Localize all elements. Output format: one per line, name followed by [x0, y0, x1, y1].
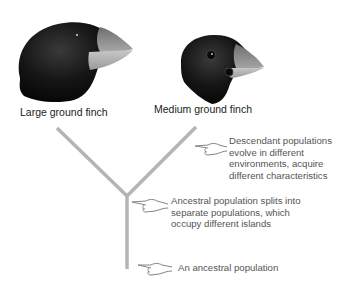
pointing-hand-icon: [137, 261, 173, 277]
annotation-descendant-populations: Descendant populations evolve in differe…: [229, 135, 332, 181]
right-branch: [127, 127, 196, 196]
left-branch: [57, 128, 127, 196]
large-ground-finch-label: Large ground finch: [20, 106, 108, 118]
large-ground-finch-illustration: [19, 22, 133, 102]
medium-ground-finch-illustration: [181, 35, 264, 104]
pointing-hand-icon: [194, 141, 228, 157]
annotation-ancestral-population: An ancestral population: [178, 262, 278, 274]
pointing-hand-icon: [131, 197, 169, 215]
medium-ground-finch-label: Medium ground finch: [154, 103, 252, 115]
annotation-ancestral-split: Ancestral population splits into separat…: [171, 195, 301, 230]
